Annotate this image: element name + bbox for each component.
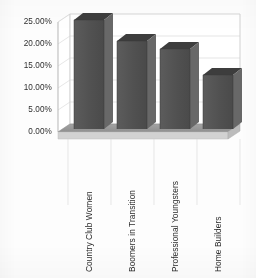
y-tick-label-10: 10.00% xyxy=(2,83,52,93)
y-tick-label-20: 20.00% xyxy=(2,39,52,49)
category-label-boomers-in-transition: Boomers in Transition xyxy=(127,190,137,272)
category-label-country-club-women: Country Club Women xyxy=(84,191,94,272)
y-tick-label-5: 5.00% xyxy=(2,105,52,115)
category-label-professional-youngsters: Professional Youngsters xyxy=(170,181,180,272)
y-tick-label-0: 0.00% xyxy=(2,127,52,137)
bar-home-builders[interactable] xyxy=(203,68,242,129)
bar-country-club-women[interactable] xyxy=(74,13,113,129)
y-tick-label-15: 15.00% xyxy=(2,61,52,71)
bar-professional-youngsters[interactable] xyxy=(160,42,199,129)
category-label-home-builders: Home Builders xyxy=(213,216,223,272)
y-tick-label-25: 25.00% xyxy=(2,17,52,27)
bar-boomers-in-transition[interactable] xyxy=(117,34,156,129)
bar-chart: 25.00% 20.00% 15.00% 10.00% 5.00% 0.00% … xyxy=(0,0,256,278)
